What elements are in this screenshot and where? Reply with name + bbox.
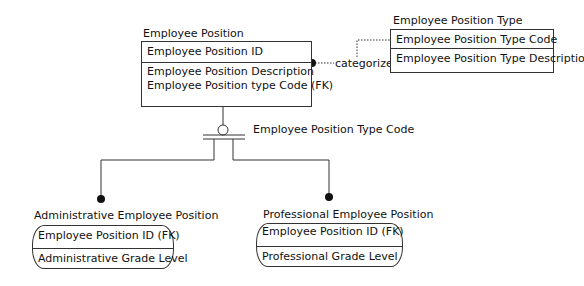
subtype-circle-icon (218, 125, 228, 135)
entity-title-professional-employee-position: Professional Employee Position (263, 208, 433, 221)
entity-title-employee-position: Employee Position (143, 27, 244, 40)
entity-key: Employee Position ID (FK) (33, 226, 173, 248)
entity-key: Employee Position ID (FK) (257, 224, 402, 246)
entity-title-administrative-employee-position: Administrative Employee Position (34, 209, 218, 222)
entity-attribute: Employee Position Type Description (391, 48, 553, 68)
entity-key: Employee Position ID (142, 42, 311, 62)
discriminator-label: Employee Position Type Code (253, 123, 414, 136)
relationship-label-categorizes: categorizes (335, 57, 398, 70)
entity-attribute: Employee Position type Code (FK) (142, 79, 311, 93)
entity-attribute: Employee Position Description (142, 65, 311, 79)
entity-title-employee-position-type: Employee Position Type (393, 14, 523, 27)
subtype-dot-icon (97, 195, 105, 203)
entity-key: Employee Position Type Code (391, 30, 553, 48)
subtype-dot-icon (325, 193, 333, 201)
entity-attribute: Professional Grade Level (257, 246, 402, 266)
entity-employee-position[interactable]: Employee Position ID Employee Position D… (141, 41, 312, 107)
entity-employee-position-type[interactable]: Employee Position Type Code Employee Pos… (390, 29, 554, 73)
entity-attribute: Administrative Grade Level (33, 248, 173, 268)
entity-professional-employee-position[interactable]: Employee Position ID (FK) Professional G… (256, 223, 403, 267)
entity-administrative-employee-position[interactable]: Employee Position ID (FK) Administrative… (32, 225, 174, 269)
